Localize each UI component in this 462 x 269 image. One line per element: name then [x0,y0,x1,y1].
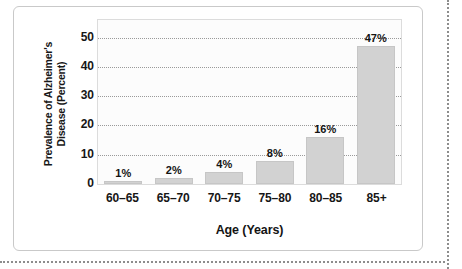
bars-layer: 1%2%4%8%16%47% [98,20,401,184]
bar[interactable] [256,161,294,184]
y-axis-tick-label: 0 [64,177,94,189]
bar-slot: 16% [300,20,351,184]
y-axis-tick-label: 10 [64,148,94,160]
y-axis-tick-label: 20 [64,118,94,130]
y-axis-tick-label: 50 [64,31,94,43]
y-axis-tick-labels: 01020304050 [64,19,94,199]
page-right-dotted-rule [447,0,449,269]
x-axis-tick-labels: 60–6565–7070–7575–8080–8585+ [97,191,402,207]
x-axis-tick-label: 60–65 [97,191,148,205]
x-axis-tick-label: 70–75 [199,191,250,205]
bar-value-label: 4% [199,159,250,170]
page-bottom-dotted-rule [0,261,445,263]
y-axis-title-line-1: Prevalence of Alzheimer's [42,19,55,189]
bar-slot: 47% [351,20,402,184]
y-axis-tick-label: 40 [64,60,94,72]
x-axis-tick-label: 80–85 [300,191,351,205]
y-axis-tick-label: 30 [64,89,94,101]
bar-slot: 2% [149,20,200,184]
x-axis-tick-label: 75–80 [250,191,301,205]
bar[interactable] [104,181,142,184]
bar-slot: 4% [199,20,250,184]
bar-value-label: 8% [250,148,301,159]
bar-value-label: 1% [98,168,149,179]
bar-value-label: 47% [351,33,402,44]
bar[interactable] [357,46,395,184]
bar-value-label: 2% [149,165,200,176]
x-axis-tick-label: 65–70 [148,191,199,205]
x-axis-title: Age (Years) [97,223,402,237]
bar[interactable] [155,178,193,184]
bar-slot: 8% [250,20,301,184]
figure-card: Prevalence of Alzheimer's Disease (Perce… [13,6,423,251]
bar-slot: 1% [98,20,149,184]
x-axis-tick-label: 85+ [351,191,402,205]
bar-value-label: 16% [300,124,351,135]
plot-area: 1%2%4%8%16%47% [97,19,402,185]
bar[interactable] [306,137,344,184]
bar[interactable] [205,172,243,184]
